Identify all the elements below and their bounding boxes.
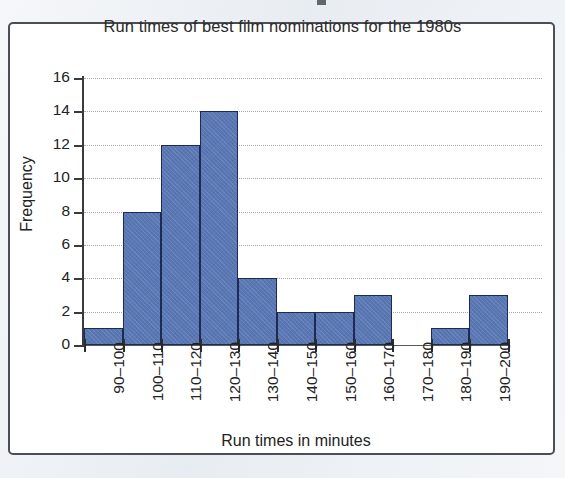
scan-artifact-mark [317, 0, 326, 5]
figure-frame [8, 22, 555, 455]
